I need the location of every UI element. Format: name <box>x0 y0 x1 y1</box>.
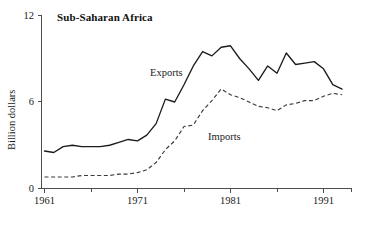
chart-figure: 0 6 12 Billion dollars 1961 1971 1981 19… <box>0 0 370 225</box>
x-axis-ticks <box>45 189 352 194</box>
x-tick-label-1961: 1961 <box>34 195 55 206</box>
chart-title: Sub-Saharan Africa <box>57 11 153 23</box>
y-axis-ticks <box>38 16 42 189</box>
series-label-imports: Imports <box>208 131 241 142</box>
x-tick-label-1991: 1991 <box>313 195 334 206</box>
y-axis-title: Billion dollars <box>6 90 17 150</box>
x-tick-label-1981: 1981 <box>220 195 241 206</box>
series-line-exports <box>45 46 343 153</box>
y-tick-label-12: 12 <box>24 10 35 21</box>
x-tick-label-1971: 1971 <box>127 195 148 206</box>
series-label-exports: Exports <box>150 67 183 78</box>
y-tick-label-0: 0 <box>29 183 34 194</box>
line-chart: 0 6 12 Billion dollars 1961 1971 1981 19… <box>0 0 370 225</box>
y-tick-label-6: 6 <box>29 96 34 107</box>
series-line-imports <box>45 89 343 177</box>
